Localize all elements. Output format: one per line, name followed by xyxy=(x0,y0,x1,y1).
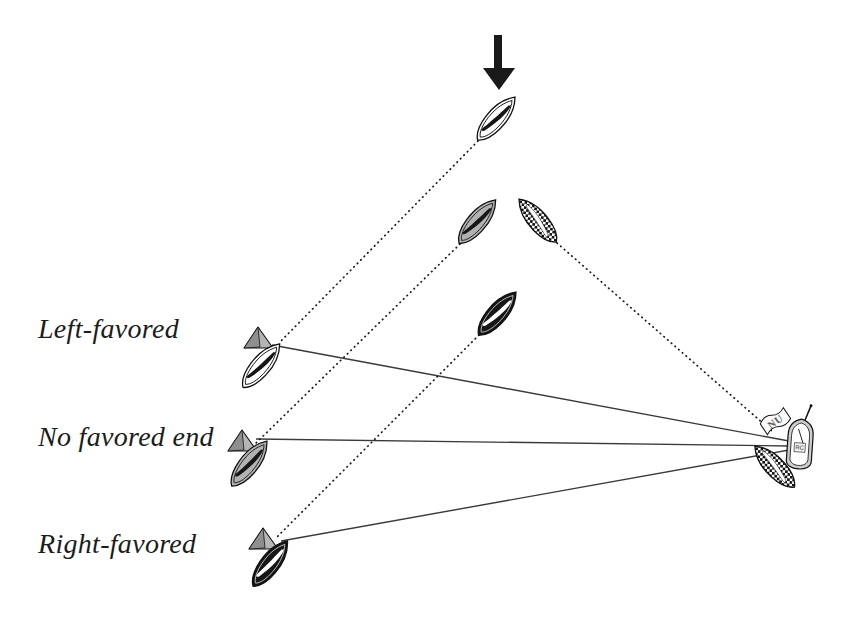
course-line-gray-boat-to-middle-pin xyxy=(256,244,460,443)
course-lines xyxy=(256,141,773,537)
committee-boat-icon: RC xyxy=(786,403,816,470)
label-right-favored: Right-favored xyxy=(38,529,196,559)
rc-label: RC xyxy=(795,444,805,451)
sailboat-white-top-icon xyxy=(470,91,522,147)
committee-boat-mast xyxy=(805,406,811,421)
pin-buoy-right-favored xyxy=(249,528,278,549)
pin-buoy-left-favored xyxy=(244,327,273,348)
diagram-canvas: RC NU Left-favored No favored end Right-… xyxy=(0,0,855,628)
start-line-left-favored xyxy=(272,345,789,441)
pin-shaded-face xyxy=(249,528,265,549)
nu-flag-icon: NU xyxy=(758,407,792,436)
pin-shaded-face xyxy=(244,327,260,348)
sailboat-gray-upper-icon xyxy=(452,194,503,250)
label-no-favored-end: No favored end xyxy=(38,422,214,452)
wind-direction-arrow xyxy=(483,35,515,90)
start-line-right-favored xyxy=(281,450,789,541)
sailboat-black-middle-icon xyxy=(471,286,523,342)
course-line-top-boat-to-left-pin xyxy=(279,141,478,343)
label-left-favored: Left-favored xyxy=(38,314,179,344)
start-line-no-favored xyxy=(256,439,789,446)
pin-shaded-face xyxy=(228,430,244,451)
sailboat-checkered-upper-icon xyxy=(512,193,564,249)
